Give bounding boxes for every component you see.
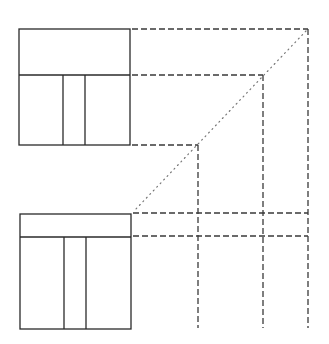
orthographic-drawing xyxy=(0,0,329,344)
top-view-outline xyxy=(19,29,130,145)
front-view-outline xyxy=(20,214,131,329)
top-view xyxy=(19,29,130,145)
front-view xyxy=(20,214,131,329)
projection-lines xyxy=(132,29,308,328)
miter-line xyxy=(134,31,306,211)
